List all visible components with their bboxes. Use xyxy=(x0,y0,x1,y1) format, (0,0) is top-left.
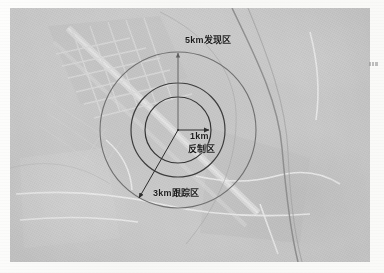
zone-center-point xyxy=(177,129,179,131)
map-plate[interactable]: 5km发现区 1km 反制区 3km跟踪区 xyxy=(10,8,370,262)
label-zone-5km: 5km发现区 xyxy=(185,35,231,46)
label-zone-3km: 3km跟踪区 xyxy=(153,188,199,199)
label-radius-1km: 1km xyxy=(190,131,209,142)
label-zone-1km: 反制区 xyxy=(188,144,216,155)
print-artifact-mark xyxy=(369,62,378,66)
